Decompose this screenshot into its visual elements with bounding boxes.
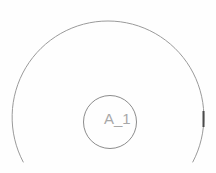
cad-drawing: A_1 <box>0 0 216 173</box>
area-label[interactable]: A_1 <box>104 110 131 127</box>
outer-circle-arc[interactable] <box>12 21 204 162</box>
drawing-canvas: A_1 <box>0 0 216 173</box>
